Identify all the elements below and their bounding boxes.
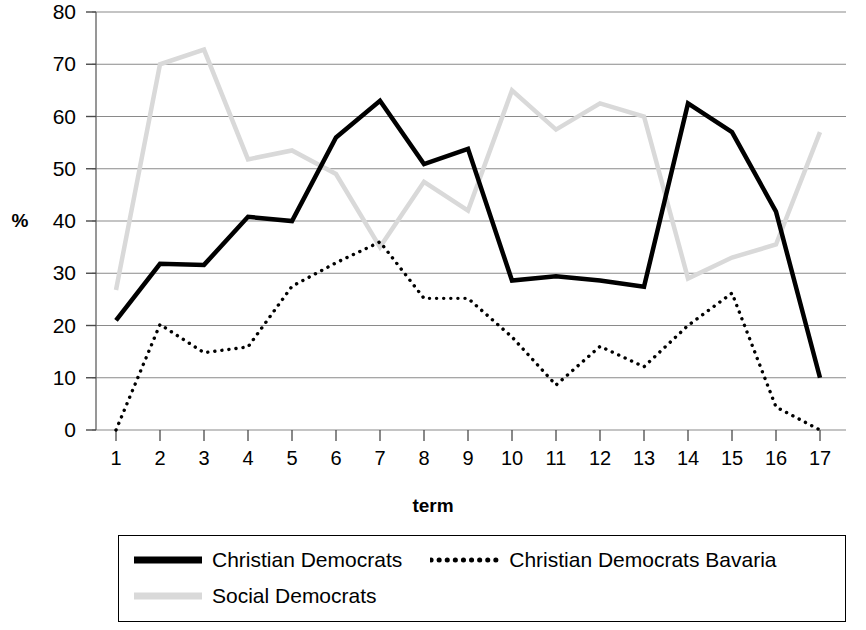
x-axis-tick-label: 1 (96, 448, 136, 468)
plot-svg (0, 0, 866, 470)
legend-swatch-solid-gray-line (133, 589, 203, 603)
plot-area: 8070605040302010012345678910111213141516… (0, 0, 866, 470)
y-axis-tick-label: 30 (16, 262, 76, 283)
x-axis-tick-label: 10 (492, 448, 532, 468)
series-line (116, 101, 820, 378)
legend-swatch-solid-black-line (133, 553, 203, 567)
y-axis-tick-label: 50 (16, 158, 76, 179)
legend-swatch-dotted-black-line (430, 553, 500, 567)
x-axis-tick-label: 15 (712, 448, 752, 468)
legend-label-social-democrats: Social Democrats (212, 584, 377, 608)
y-axis-tick-label: 10 (16, 367, 76, 388)
x-axis-tick-label: 12 (580, 448, 620, 468)
x-axis-title: term (0, 495, 866, 517)
series-line (116, 242, 820, 430)
x-axis-tick-label: 13 (624, 448, 664, 468)
x-axis-tick-label: 11 (536, 448, 576, 468)
series-line (116, 50, 820, 290)
x-axis-tick-label: 9 (448, 448, 488, 468)
legend-label-christian-democrats: Christian Democrats (212, 548, 402, 572)
x-axis-tick-label: 16 (756, 448, 796, 468)
chart-legend: Christian Democrats Christian Democrats … (118, 535, 846, 622)
legend-item-christian-democrats-bavaria: Christian Democrats Bavaria (430, 548, 776, 572)
y-axis-tick-label: 80 (16, 1, 76, 22)
legend-item-social-democrats: Social Democrats (133, 584, 377, 608)
x-axis-tick-label: 6 (316, 448, 356, 468)
y-axis-tick-label: 60 (16, 106, 76, 127)
line-chart: % 80706050403020100123456789101112131415… (0, 0, 866, 630)
y-axis-tick-label: 0 (16, 419, 76, 440)
y-axis-tick-label: 40 (16, 210, 76, 231)
x-axis-tick-label: 14 (668, 448, 708, 468)
x-axis-tick-label: 8 (404, 448, 444, 468)
legend-item-christian-democrats: Christian Democrats (133, 548, 402, 572)
x-axis-tick-label: 17 (800, 448, 840, 468)
legend-row-1: Christian Democrats Christian Democrats … (119, 542, 845, 578)
x-axis-tick-label: 7 (360, 448, 400, 468)
x-axis-tick-label: 5 (272, 448, 312, 468)
x-axis-tick-label: 3 (184, 448, 224, 468)
legend-label-christian-democrats-bavaria: Christian Democrats Bavaria (509, 548, 776, 572)
x-axis-tick-label: 2 (140, 448, 180, 468)
y-axis-tick-label: 70 (16, 53, 76, 74)
y-axis-tick-label: 20 (16, 315, 76, 336)
legend-row-2: Social Democrats (119, 578, 845, 614)
x-axis-tick-label: 4 (228, 448, 268, 468)
